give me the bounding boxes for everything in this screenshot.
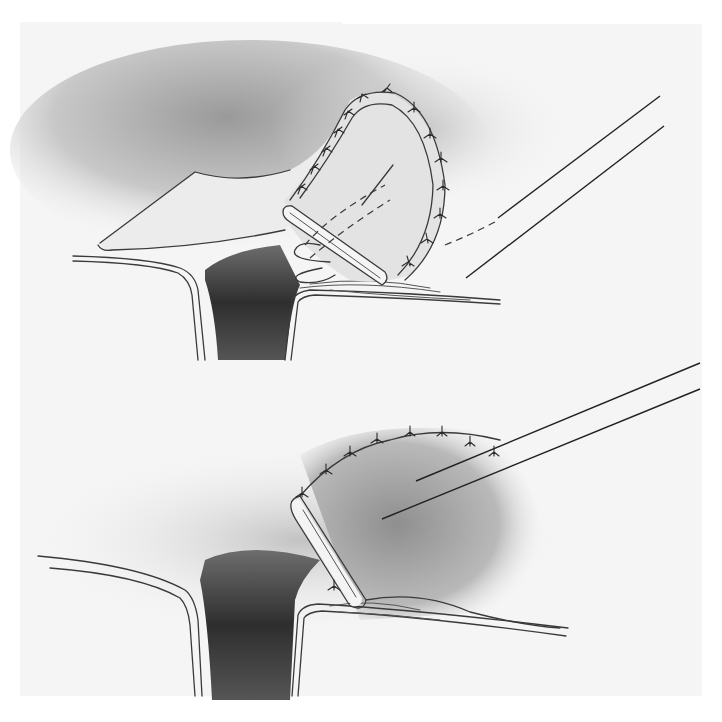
illustration-canvas <box>0 0 722 722</box>
cavity-top <box>205 245 300 360</box>
surgical-illustration <box>0 0 722 722</box>
